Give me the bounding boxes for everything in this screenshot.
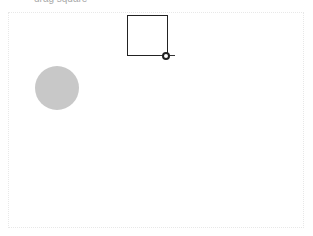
target-circle[interactable] <box>35 66 79 110</box>
resize-handle[interactable] <box>162 52 170 60</box>
header-text: drag square <box>34 0 87 4</box>
draggable-square[interactable] <box>127 15 168 56</box>
